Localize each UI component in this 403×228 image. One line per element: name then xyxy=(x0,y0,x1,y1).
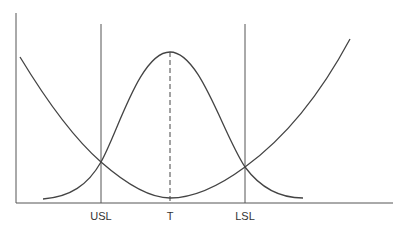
loss-curve xyxy=(20,39,350,198)
bell-curve xyxy=(43,52,303,199)
lsl-label: LSL xyxy=(235,210,255,222)
usl-label: USL xyxy=(90,210,111,222)
diagram-canvas xyxy=(0,0,403,228)
target-label: T xyxy=(167,210,174,222)
